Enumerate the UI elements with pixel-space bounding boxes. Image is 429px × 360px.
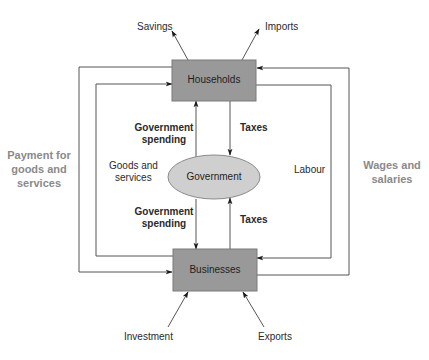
flow-line-savings <box>172 31 188 60</box>
goods-services-line2: services <box>109 172 158 184</box>
exports-label: Exports <box>258 331 292 343</box>
taxes-top-label: Taxes <box>240 122 268 134</box>
government-label: Government <box>168 171 260 182</box>
goods-services-line1: Goods and <box>109 160 158 172</box>
wages-side-label: Wages and salaries <box>358 158 426 186</box>
payment-side-label: Payment for goods and services <box>4 148 74 190</box>
payment-line1: Payment for <box>4 148 74 162</box>
gov-spending-bottom-line2: spending <box>134 218 194 230</box>
flow-line-exports <box>243 292 264 327</box>
gov-spending-top-line2: spending <box>134 134 194 146</box>
flow-line-investment <box>168 292 188 327</box>
labour-label: Labour <box>294 164 325 176</box>
taxes-bottom-label: Taxes <box>240 214 268 226</box>
payment-line3: services <box>4 176 74 190</box>
wages-line2: salaries <box>358 172 426 186</box>
wages-line1: Wages and <box>358 158 426 172</box>
imports-label: Imports <box>265 21 298 33</box>
households-label: Households <box>172 74 256 85</box>
gov-spending-top-line1: Government <box>134 122 194 134</box>
flow-line-imports <box>242 29 259 60</box>
payment-line2: goods and <box>4 162 74 176</box>
gov-spending-bottom-line1: Government <box>134 206 194 218</box>
investment-label: Investment <box>124 331 173 343</box>
businesses-label: Businesses <box>173 264 257 275</box>
gov-spending-top-label: Government spending <box>134 122 194 146</box>
savings-label: Savings <box>137 21 173 33</box>
gov-spending-bottom-label: Government spending <box>134 206 194 230</box>
goods-services-label: Goods and services <box>109 160 158 184</box>
